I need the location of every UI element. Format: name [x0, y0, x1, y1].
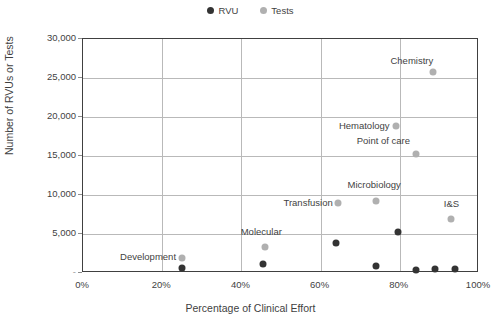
data-point[interactable] [179, 265, 186, 272]
y-axis-tick-label: 10,000 [2, 189, 76, 199]
x-axis-tick-label: 100% [466, 280, 490, 290]
y-axis-tick-label: 25,000 [2, 72, 76, 82]
data-point[interactable] [430, 68, 437, 75]
point-label: Microbiology [348, 180, 401, 190]
point-label: Transfusion [283, 198, 332, 208]
legend-item-tests[interactable]: Tests [260, 6, 293, 16]
x-axis-tick-label: 0% [75, 280, 89, 290]
data-point[interactable] [260, 261, 267, 268]
gridline-vertical [321, 39, 322, 271]
x-axis-tick-label: 40% [231, 280, 250, 290]
data-point[interactable] [412, 150, 419, 157]
gridline-horizontal [83, 117, 477, 118]
data-point[interactable] [452, 266, 459, 273]
y-axis-tick-mark [78, 77, 82, 78]
y-axis-tick-label: - [2, 267, 76, 277]
gridline-vertical [400, 39, 401, 271]
legend-item-rvu[interactable]: RVU [207, 6, 238, 16]
y-axis-tick-label: 15,000 [2, 150, 76, 160]
point-label: Molecular [241, 227, 282, 237]
gridline-horizontal [83, 195, 477, 196]
y-axis-tick-mark [78, 233, 82, 234]
y-axis-tick-mark [78, 38, 82, 39]
y-axis-tick-mark [78, 116, 82, 117]
point-label: I&S [444, 199, 459, 209]
x-axis-tick-label: 60% [310, 280, 329, 290]
y-axis-title: Number of RVUs or Tests [4, 36, 15, 155]
legend-swatch-icon [260, 7, 267, 14]
legend-label: Tests [271, 6, 293, 16]
y-axis-tick-mark [78, 194, 82, 195]
x-axis-title: Percentage of Clinical Effort [0, 303, 501, 314]
y-axis-tick-mark [78, 272, 82, 273]
chart-legend: RVUTests [0, 6, 501, 16]
point-label: Hematology [339, 121, 390, 131]
plot-area: ChemistryHematologyPoint of careMicrobio… [82, 38, 478, 272]
data-point[interactable] [432, 266, 439, 273]
y-axis-tick-label: 30,000 [2, 33, 76, 43]
y-axis-tick-label: 5,000 [2, 228, 76, 238]
legend-swatch-icon [207, 7, 214, 14]
data-point[interactable] [373, 262, 380, 269]
data-point[interactable] [333, 239, 340, 246]
legend-label: RVU [218, 6, 238, 16]
data-point[interactable] [179, 255, 186, 262]
data-point[interactable] [373, 198, 380, 205]
data-point[interactable] [262, 244, 269, 251]
x-axis-tick-label: 20% [152, 280, 171, 290]
scatter-chart: RVUTests ChemistryHematologyPoint of car… [0, 0, 501, 329]
point-label: Point of care [357, 136, 410, 146]
x-axis-tick-label: 80% [389, 280, 408, 290]
y-axis-tick-label: 20,000 [2, 111, 76, 121]
data-point[interactable] [394, 229, 401, 236]
point-label: Development [120, 252, 176, 262]
data-point[interactable] [448, 216, 455, 223]
y-axis-tick-mark [78, 155, 82, 156]
point-label: Chemistry [390, 56, 433, 66]
gridline-horizontal [83, 78, 477, 79]
gridline-vertical [162, 39, 163, 271]
data-point[interactable] [392, 122, 399, 129]
data-point[interactable] [412, 266, 419, 273]
data-point[interactable] [335, 199, 342, 206]
